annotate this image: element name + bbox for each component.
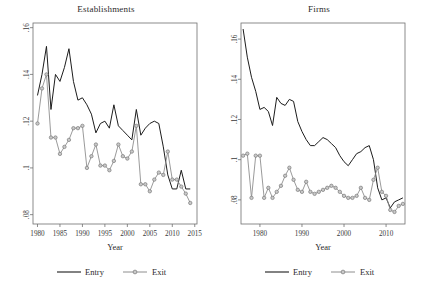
- series-marker-exit: [300, 190, 303, 193]
- y-tick-label: .08: [231, 195, 239, 204]
- x-tick-label: 2000: [120, 230, 135, 238]
- y-tick-label: .14: [23, 70, 31, 79]
- series-marker-exit: [342, 194, 345, 197]
- series-marker-exit: [90, 155, 93, 158]
- y-tick-label: .16: [231, 34, 239, 43]
- series-marker-exit: [283, 174, 286, 177]
- x-tick-label: 1980: [253, 230, 268, 238]
- legend-label-exit: Exit: [360, 267, 375, 277]
- series-marker-exit: [368, 198, 371, 201]
- y-tick-label: .1: [231, 157, 239, 163]
- x-tick-label: 1980: [30, 230, 45, 238]
- series-marker-exit: [246, 152, 249, 155]
- series-marker-exit: [144, 183, 147, 186]
- y-tick-label: .12: [231, 115, 239, 124]
- series-marker-exit: [126, 157, 129, 160]
- series-marker-exit: [304, 180, 307, 183]
- chart-svg-establishments: .08.1.12.14.1619801985199019952000200520…: [0, 0, 212, 289]
- series-marker-exit: [99, 164, 102, 167]
- series-marker-exit: [250, 196, 253, 199]
- series-marker-exit: [372, 178, 375, 181]
- series-marker-exit: [317, 190, 320, 193]
- y-tick-label: .16: [23, 23, 31, 32]
- plot-frame: [33, 23, 197, 224]
- series-marker-exit: [63, 145, 66, 148]
- series-marker-exit: [184, 192, 187, 195]
- series-marker-exit: [326, 186, 329, 189]
- series-marker-exit: [254, 154, 257, 157]
- series-marker-exit: [58, 152, 61, 155]
- series-marker-exit: [112, 159, 115, 162]
- series-marker-exit: [180, 185, 183, 188]
- series-marker-exit: [166, 150, 169, 153]
- chart-panel-establishments: Establishments .08.1.12.14.1619801985199…: [0, 0, 212, 289]
- series-marker-exit: [275, 190, 278, 193]
- series-marker-exit: [309, 190, 312, 193]
- series-marker-exit: [36, 122, 39, 125]
- x-tick-label: 2010: [165, 230, 180, 238]
- series-marker-exit: [296, 188, 299, 191]
- series-line-entry: [37, 46, 190, 189]
- series-marker-exit: [103, 164, 106, 167]
- x-tick-label: 1990: [295, 230, 310, 238]
- series-marker-exit: [54, 136, 57, 139]
- x-tick-label: 1985: [53, 230, 68, 238]
- series-marker-exit: [267, 186, 270, 189]
- legend-label-entry: Entry: [85, 267, 105, 277]
- series-marker-exit: [355, 194, 358, 197]
- x-axis-label: Year: [107, 242, 123, 252]
- series-marker-exit: [241, 154, 244, 157]
- series-line-entry: [243, 29, 403, 208]
- series-marker-exit: [351, 196, 354, 199]
- series-marker-exit: [376, 166, 379, 169]
- x-tick-label: 2005: [143, 230, 158, 238]
- series-marker-exit: [175, 178, 178, 181]
- series-marker-exit: [313, 192, 316, 195]
- series-marker-exit: [347, 196, 350, 199]
- series-marker-exit: [148, 190, 151, 193]
- x-tick-label: 2000: [337, 230, 352, 238]
- series-marker-exit: [359, 186, 362, 189]
- series-marker-exit: [397, 204, 400, 207]
- series-marker-exit: [85, 166, 88, 169]
- y-tick-label: .08: [23, 210, 31, 219]
- series-marker-exit: [288, 166, 291, 169]
- legend-label-entry: Entry: [293, 267, 313, 277]
- series-marker-exit: [258, 154, 261, 157]
- series-marker-exit: [330, 184, 333, 187]
- series-line-exit: [243, 154, 403, 212]
- series-marker-exit: [67, 138, 70, 141]
- series-marker-exit: [389, 208, 392, 211]
- x-axis-label: Year: [315, 242, 331, 252]
- chart-panel-firms: Firms .08.1.12.14.161980199020002010Year…: [213, 0, 425, 289]
- series-marker-exit: [271, 196, 274, 199]
- series-line-exit: [37, 74, 190, 203]
- series-marker-exit: [72, 126, 75, 129]
- series-marker-exit: [121, 155, 124, 158]
- series-marker-exit: [384, 194, 387, 197]
- series-marker-exit: [401, 202, 404, 205]
- series-marker-exit: [171, 178, 174, 181]
- series-marker-exit: [393, 210, 396, 213]
- series-marker-exit: [380, 190, 383, 193]
- series-marker-exit: [162, 173, 165, 176]
- series-marker-exit: [292, 178, 295, 181]
- series-marker-exit: [157, 171, 160, 174]
- x-tick-label: 1995: [98, 230, 113, 238]
- series-marker-exit: [189, 201, 192, 204]
- chart-svg-firms: .08.1.12.14.161980199020002010YearEntryE…: [213, 0, 425, 289]
- legend-marker-exit: [341, 270, 345, 274]
- series-marker-exit: [334, 186, 337, 189]
- series-marker-exit: [279, 184, 282, 187]
- y-tick-label: .1: [23, 165, 31, 171]
- series-marker-exit: [262, 196, 265, 199]
- x-tick-label: 2015: [188, 230, 203, 238]
- legend-label-exit: Exit: [152, 267, 167, 277]
- series-marker-exit: [338, 190, 341, 193]
- series-marker-exit: [45, 73, 48, 76]
- legend-marker-exit: [133, 270, 137, 274]
- series-marker-exit: [108, 169, 111, 172]
- series-marker-exit: [153, 178, 156, 181]
- y-tick-label: .12: [23, 116, 31, 125]
- series-marker-exit: [321, 188, 324, 191]
